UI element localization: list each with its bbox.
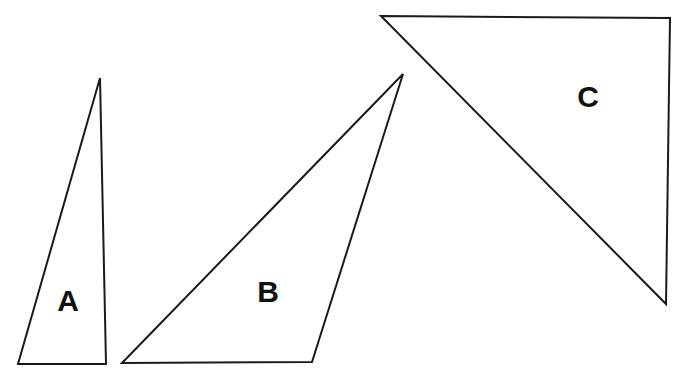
triangle-c-label: C <box>577 80 599 113</box>
triangle-a-label: A <box>57 284 79 317</box>
triangle-b-label: B <box>257 275 279 308</box>
triangle-a-outline <box>18 78 106 364</box>
triangle-b-outline <box>122 74 403 363</box>
figure-canvas: A B C <box>0 0 679 378</box>
triangles-figure: A B C <box>0 0 679 378</box>
triangle-c-outline <box>381 16 670 304</box>
